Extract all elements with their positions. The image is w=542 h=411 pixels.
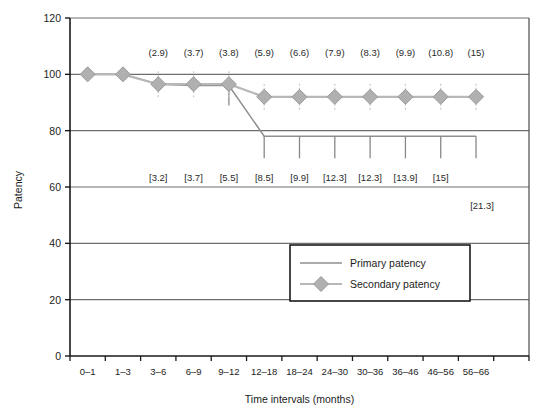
x-axis-tick-label: 6–9 — [186, 366, 202, 377]
annotation-top: (2.9) — [148, 47, 168, 58]
legend-label-primary: Primary patency — [350, 257, 427, 269]
y-axis-tick-label: 100 — [43, 68, 61, 80]
annotation-bottom: [12.3] — [358, 172, 382, 183]
y-axis-tick-label: 40 — [49, 237, 61, 249]
y-axis-tick-label: 0 — [55, 350, 61, 362]
x-axis-title: Time intervals (months) — [245, 393, 354, 405]
y-axis-tick-label: 20 — [49, 294, 61, 306]
annotation-bottom: [13.9] — [394, 172, 418, 183]
annotation-extra: [21.3] — [470, 200, 494, 211]
x-axis-tick-label: 56–66 — [463, 366, 489, 377]
annotation-top: (15) — [468, 47, 485, 58]
chart-background — [0, 0, 542, 411]
x-axis-tick-label: 36–46 — [392, 366, 418, 377]
annotation-bottom: [15] — [433, 172, 449, 183]
x-axis-tick-label: 18–24 — [286, 366, 312, 377]
y-axis-tick-label: 120 — [43, 12, 61, 24]
annotation-top: (8.3) — [360, 47, 380, 58]
patency-chart: 020406080100120 0–11–33–66–99–1212–1818–… — [0, 0, 542, 411]
annotation-bottom: [3.2] — [149, 172, 168, 183]
annotation-bottom: [12.3] — [323, 172, 347, 183]
annotation-top: (3.7) — [184, 47, 204, 58]
chart-canvas: 020406080100120 0–11–33–66–99–1212–1818–… — [0, 0, 542, 411]
annotation-top: (3.8) — [219, 47, 239, 58]
annotations-extra-group: [21.3] — [470, 200, 494, 211]
x-axis-tick-label: 30–36 — [357, 366, 383, 377]
legend-box — [290, 245, 470, 301]
x-axis-tick-label: 9–12 — [218, 366, 239, 377]
annotations-bottom-group: [3.2][3.7][5.5][8.5][9.9][12.3][12.3][13… — [149, 172, 449, 183]
annotation-bottom: [9.9] — [290, 172, 309, 183]
x-axis-tick-label: 0–1 — [80, 366, 96, 377]
x-axis-tick-label: 3–6 — [150, 366, 166, 377]
annotation-bottom: [5.5] — [220, 172, 239, 183]
annotation-bottom: [3.7] — [184, 172, 203, 183]
annotation-bottom: [8.5] — [255, 172, 274, 183]
y-axis-title: Patency — [12, 170, 24, 209]
annotation-top: (7.9) — [325, 47, 345, 58]
x-axis-tick-label: 24–30 — [322, 366, 348, 377]
x-axis-tick-label: 1–3 — [115, 366, 131, 377]
y-axis-tick-label: 80 — [49, 125, 61, 137]
annotation-top: (6.6) — [290, 47, 310, 58]
x-axis-tick-label: 46–56 — [428, 366, 454, 377]
legend-label-secondary: Secondary patency — [350, 278, 441, 290]
x-axis-tick-label: 12–18 — [251, 366, 277, 377]
y-axis-tick-label: 60 — [49, 181, 61, 193]
annotation-top: (9.9) — [396, 47, 416, 58]
chart-legend: Primary patencySecondary patency — [290, 245, 470, 301]
annotation-top: (10.8) — [428, 47, 453, 58]
annotation-top: (5.9) — [254, 47, 274, 58]
